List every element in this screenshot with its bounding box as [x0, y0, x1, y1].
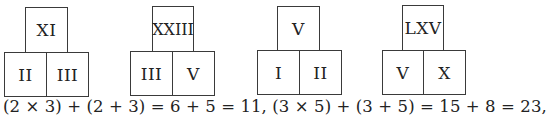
- bottom-left-box: II: [4, 52, 47, 97]
- top-numeral: XXIII: [152, 20, 194, 39]
- right-numeral: V: [187, 64, 200, 84]
- left-numeral: V: [397, 63, 410, 83]
- top-box: LXV: [402, 5, 444, 51]
- top-numeral: V: [292, 19, 305, 39]
- bottom-right-box: V: [172, 51, 215, 96]
- top-box: XXIII: [152, 6, 194, 52]
- top-numeral: LXV: [404, 18, 441, 38]
- top-box: V: [277, 6, 320, 51]
- right-numeral: II: [313, 63, 327, 83]
- bottom-right-box: II: [299, 50, 342, 95]
- equation-text: (2 × 3) + (2 + 3) = 6 + 5 = 11, (3 × 5) …: [3, 97, 547, 116]
- left-numeral: II: [18, 65, 32, 85]
- top-box: XI: [25, 7, 68, 53]
- bottom-right-box: III: [46, 52, 89, 97]
- top-numeral: XI: [37, 20, 57, 40]
- bottom-right-box: X: [423, 50, 466, 95]
- bottom-left-box: III: [130, 51, 173, 96]
- right-numeral: X: [438, 63, 451, 83]
- left-numeral: I: [275, 63, 282, 83]
- bottom-left-box: I: [257, 50, 300, 95]
- right-numeral: III: [57, 65, 79, 85]
- left-numeral: III: [141, 64, 163, 84]
- bottom-left-box: V: [382, 50, 424, 95]
